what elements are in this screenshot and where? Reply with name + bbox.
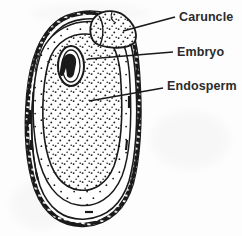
label-embryo: Embryo [177, 45, 224, 59]
seed-diagram-figure: Caruncle Embryo Endosperm [0, 0, 242, 236]
label-endosperm: Endosperm [167, 79, 237, 93]
embryo-region [58, 46, 84, 86]
seed-cross-section-drawing [0, 0, 242, 236]
label-caruncle: Caruncle [179, 10, 233, 24]
